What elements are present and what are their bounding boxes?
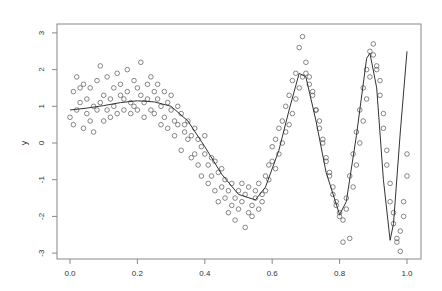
- y-tick-label: 3: [37, 30, 46, 35]
- x-tick-label: 1.0: [401, 269, 413, 278]
- x-tick-label: 0.2: [132, 269, 144, 278]
- scatter-plot: 0.00.20.40.60.81.0 -3-2-10123 y: [0, 0, 442, 291]
- y-tick-label: 1: [37, 104, 46, 109]
- y-tick-label: 2: [37, 67, 46, 72]
- y-tick-label: 0: [37, 140, 46, 145]
- x-tick-label: 0.0: [64, 269, 76, 278]
- y-axis-title: y: [19, 140, 29, 145]
- y-tick-label: -3: [37, 249, 46, 257]
- y-tick-label: -2: [37, 212, 46, 220]
- x-tick-label: 0.4: [199, 269, 211, 278]
- x-tick-label: 0.6: [267, 269, 279, 278]
- y-tick-label: -1: [37, 176, 46, 184]
- x-tick-label: 0.8: [334, 269, 346, 278]
